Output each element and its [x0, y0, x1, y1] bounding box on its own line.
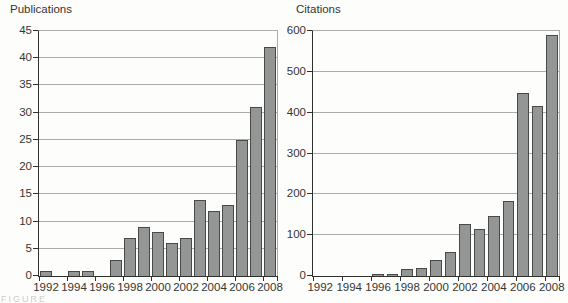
- bar-2005: [503, 201, 515, 276]
- bar-1992: [40, 271, 51, 276]
- y-axis-label: 200: [287, 189, 306, 201]
- y-axis-label: 0: [26, 270, 32, 282]
- citations-chart-title: Citations: [296, 4, 341, 16]
- bar-2006: [517, 93, 529, 276]
- y-axis-tick: [307, 112, 312, 113]
- x-axis-tick: [342, 276, 343, 281]
- bar-1996: [372, 274, 384, 276]
- bar-2003: [474, 229, 486, 276]
- bar-2004: [488, 216, 500, 276]
- gridline: [313, 71, 559, 72]
- y-axis-tick: [33, 166, 38, 167]
- y-axis-tick: [33, 193, 38, 194]
- x-axis-label: 1998: [117, 282, 143, 294]
- bar-2007: [250, 107, 261, 276]
- x-axis-tick: [151, 276, 152, 281]
- x-axis-tick: [179, 276, 180, 281]
- y-axis-label: 600: [287, 25, 306, 37]
- bar-1999: [416, 268, 428, 276]
- bar-1995: [82, 271, 93, 276]
- bar-1998: [401, 269, 413, 276]
- bar-1998: [124, 238, 135, 276]
- y-axis-tick: [33, 57, 38, 58]
- x-axis-tick: [458, 276, 459, 281]
- y-axis-label: 30: [19, 107, 32, 119]
- x-axis-label: 2002: [452, 282, 478, 294]
- bar-2000: [152, 232, 163, 276]
- x-axis-tick: [559, 276, 560, 281]
- y-axis-tick: [33, 139, 38, 140]
- y-axis-label: 400: [287, 107, 306, 119]
- y-axis-label: 0: [300, 270, 306, 282]
- y-axis-tick: [33, 30, 38, 31]
- bar-2006: [236, 140, 247, 276]
- x-axis-label: 2008: [257, 282, 283, 294]
- x-axis-label: 2004: [201, 282, 227, 294]
- x-axis-tick: [39, 276, 40, 281]
- y-axis-label: 25: [19, 134, 32, 146]
- y-axis-tick: [307, 153, 312, 154]
- bar-2001: [166, 243, 177, 276]
- x-axis-label: 1996: [365, 282, 391, 294]
- gridline: [39, 84, 277, 85]
- citations-chart: Citations 600500400300200100019921994199…: [284, 0, 568, 303]
- y-axis-tick: [307, 71, 312, 72]
- x-axis-label: 2004: [481, 282, 507, 294]
- y-axis-label: 300: [287, 148, 306, 160]
- bar-2001: [445, 252, 457, 277]
- publications-chart-title: Publications: [10, 4, 72, 16]
- y-axis-label: 15: [19, 189, 32, 201]
- x-axis-tick: [277, 276, 278, 281]
- citations-plot-area: 6005004003002001000199219941996199820002…: [312, 30, 560, 277]
- bar-2000: [430, 260, 442, 276]
- x-axis-label: 2002: [173, 282, 199, 294]
- x-axis-label: 1994: [336, 282, 362, 294]
- y-axis-tick: [307, 275, 312, 276]
- y-axis-tick: [307, 30, 312, 31]
- x-axis-label: 1992: [307, 282, 333, 294]
- bar-2005: [222, 205, 233, 276]
- y-axis-tick: [33, 221, 38, 222]
- bar-1994: [68, 271, 79, 276]
- bar-2007: [532, 106, 544, 276]
- x-axis-label: 1994: [61, 282, 87, 294]
- x-axis-label: 2008: [539, 282, 565, 294]
- y-axis-tick: [33, 248, 38, 249]
- x-axis-label: 2006: [229, 282, 255, 294]
- x-axis-tick: [313, 276, 314, 281]
- x-axis-tick: [371, 276, 372, 281]
- y-axis-tick: [307, 193, 312, 194]
- bar-1999: [138, 227, 149, 276]
- y-axis-label: 35: [19, 80, 32, 92]
- x-axis-label: 2006: [510, 282, 536, 294]
- x-axis-label: 2000: [423, 282, 449, 294]
- y-axis-label: 500: [287, 66, 306, 78]
- gridline: [39, 112, 277, 113]
- bar-2008: [546, 35, 558, 276]
- figure-caption-fragment: FIGURE: [1, 294, 73, 303]
- bar-2003: [194, 200, 205, 276]
- x-axis-tick: [487, 276, 488, 281]
- publications-chart: Publications 454035302520151050199219941…: [0, 0, 284, 303]
- y-axis-tick: [307, 234, 312, 235]
- x-axis-tick: [545, 276, 546, 281]
- bar-1997: [110, 260, 121, 276]
- x-axis-label: 1992: [33, 282, 59, 294]
- y-axis-tick: [33, 84, 38, 85]
- x-axis-tick: [207, 276, 208, 281]
- y-axis-label: 100: [287, 229, 306, 241]
- y-axis-tick: [33, 112, 38, 113]
- bar-2002: [180, 238, 191, 276]
- x-axis-label: 1996: [89, 282, 115, 294]
- x-axis-tick: [263, 276, 264, 281]
- y-axis-label: 20: [19, 161, 32, 173]
- y-axis-label: 45: [19, 25, 32, 37]
- x-axis-tick: [95, 276, 96, 281]
- bar-1997: [387, 274, 399, 276]
- y-axis-tick: [33, 275, 38, 276]
- bar-2008: [264, 47, 275, 276]
- x-axis-label: 1998: [394, 282, 420, 294]
- bar-2004: [208, 211, 219, 276]
- publications-plot-area: 4540353025201510501992199419961998200020…: [38, 30, 278, 277]
- y-axis-label: 5: [26, 243, 32, 255]
